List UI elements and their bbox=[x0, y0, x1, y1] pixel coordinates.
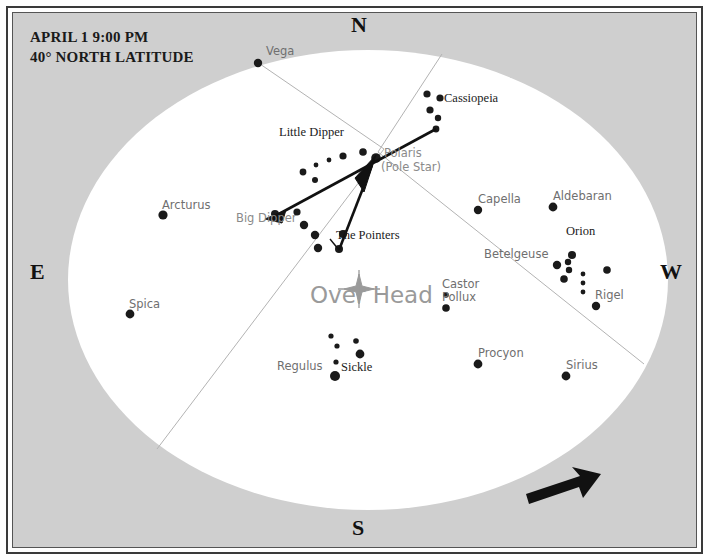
chart-date-time-text: APRIL 1 9:00 PM bbox=[30, 29, 148, 45]
compass-south: S bbox=[352, 515, 364, 541]
label-pollux: Pollux bbox=[442, 291, 476, 304]
star-betelgeuse bbox=[553, 261, 561, 269]
label-sickle: Sickle bbox=[341, 360, 372, 374]
star-orion-belt-2 bbox=[581, 281, 586, 286]
star-little-dipper-6 bbox=[312, 177, 318, 183]
star-orion-belt-1 bbox=[581, 272, 586, 277]
chart-latitude: 40° NORTH LATITUDE bbox=[30, 48, 194, 66]
chart-date-time: APRIL 1 9:00 PM bbox=[30, 28, 148, 46]
star-sickle-3 bbox=[356, 350, 365, 359]
label-sirius: Sirius bbox=[566, 359, 598, 372]
label-little-dipper: Little Dipper bbox=[279, 125, 344, 139]
star-orion-bellatrix bbox=[603, 266, 611, 274]
star-capella bbox=[474, 206, 482, 214]
label-spica: Spica bbox=[129, 298, 160, 311]
star-little-dipper-3 bbox=[327, 158, 332, 163]
compass-north: N bbox=[351, 12, 367, 38]
sky-map bbox=[12, 12, 697, 548]
star-little-dipper-5 bbox=[300, 169, 307, 176]
label-aldebaran: Aldebaran bbox=[553, 190, 612, 203]
label-big-dipper: Big Dipper bbox=[236, 212, 297, 225]
label-over-head: Over Head bbox=[310, 282, 433, 308]
label-pole-star: (Pole Star) bbox=[381, 161, 441, 174]
star-orion-2 bbox=[565, 259, 571, 265]
compass-east: E bbox=[30, 259, 45, 285]
star-chart-page: APRIL 1 9:00 PM 40° NORTH LATITUDE N S E… bbox=[0, 0, 709, 560]
label-rigel: Rigel bbox=[595, 289, 624, 302]
star-cassiopeia-2 bbox=[436, 94, 443, 101]
star-sickle-5 bbox=[333, 359, 338, 364]
star-sickle-4 bbox=[328, 333, 333, 338]
star-cassiopeia-1 bbox=[423, 90, 430, 97]
label-arcturus: Arcturus bbox=[162, 199, 210, 212]
star-cassiopeia-4 bbox=[435, 115, 441, 121]
compass-west: W bbox=[660, 259, 682, 285]
star-regulus bbox=[330, 371, 340, 381]
star-sickle-1 bbox=[334, 343, 339, 348]
label-castor: Castor bbox=[442, 278, 479, 291]
star-little-dipper-2 bbox=[339, 152, 346, 159]
label-polaris: Polaris bbox=[384, 147, 422, 160]
horizon-ellipse bbox=[68, 50, 668, 510]
star-pollux bbox=[442, 304, 450, 312]
label-the-pointers: The Pointers bbox=[336, 228, 400, 242]
star-rigel bbox=[592, 302, 600, 310]
star-orion-belt-3 bbox=[581, 290, 586, 295]
star-sickle-2 bbox=[353, 338, 359, 344]
chart-latitude-text: 40° NORTH LATITUDE bbox=[30, 49, 194, 65]
label-cassiopeia: Cassiopeia bbox=[444, 91, 498, 105]
star-procyon bbox=[474, 360, 483, 369]
label-capella: Capella bbox=[478, 193, 521, 206]
star-big-dipper-4 bbox=[311, 231, 319, 239]
star-orion-5 bbox=[560, 275, 568, 283]
star-vega bbox=[254, 59, 262, 67]
star-little-dipper-4 bbox=[314, 163, 319, 168]
star-big-dipper-5 bbox=[314, 244, 322, 252]
star-big-dipper-3 bbox=[300, 221, 308, 229]
label-procyon: Procyon bbox=[478, 347, 524, 360]
star-cassiopeia-3 bbox=[426, 106, 433, 113]
label-orion: Orion bbox=[566, 224, 595, 238]
rotation-arrow bbox=[526, 467, 601, 504]
star-orion-3 bbox=[568, 251, 576, 259]
star-orion-4 bbox=[566, 267, 572, 273]
label-vega: Vega bbox=[266, 45, 294, 58]
label-regulus: Regulus bbox=[277, 360, 323, 373]
star-little-dipper-1 bbox=[359, 148, 367, 156]
star-sirius bbox=[562, 372, 571, 381]
label-betelgeuse: Betelgeuse bbox=[484, 248, 548, 261]
star-aldebaran bbox=[549, 203, 558, 212]
